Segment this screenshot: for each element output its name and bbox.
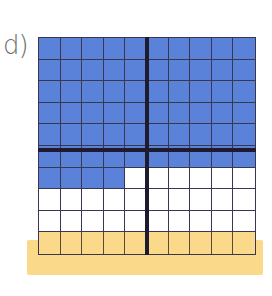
- grid-cell: [125, 103, 147, 125]
- grid-cell: [104, 168, 126, 190]
- grid-cell: [82, 124, 104, 146]
- grid-cell: [147, 124, 169, 146]
- grid-cell: [39, 189, 61, 211]
- grid-cell: [169, 124, 191, 146]
- grid-cell: [39, 232, 61, 254]
- grid-cell: [104, 103, 126, 125]
- grid-cell: [82, 81, 104, 103]
- grid-cell: [82, 103, 104, 125]
- grid-cell: [212, 103, 234, 125]
- grid-cell: [82, 211, 104, 233]
- grid-cell: [212, 124, 234, 146]
- grid-cell: [233, 189, 255, 211]
- grid-cell: [39, 124, 61, 146]
- grid-cell: [39, 60, 61, 82]
- grid-cell: [147, 38, 169, 60]
- grid-cell: [82, 60, 104, 82]
- grid-cell: [233, 124, 255, 146]
- grid-cell: [169, 189, 191, 211]
- grid-cell: [233, 81, 255, 103]
- grid-cell: [104, 124, 126, 146]
- grid-cell: [125, 124, 147, 146]
- grid-cell: [125, 168, 147, 190]
- grid-cell: [61, 60, 83, 82]
- grid-cell: [104, 81, 126, 103]
- grid-cell: [104, 38, 126, 60]
- grid-cell: [233, 232, 255, 254]
- grid-cell: [212, 168, 234, 190]
- grid-cell: [233, 103, 255, 125]
- vertical-half-divider: [145, 37, 149, 255]
- grid-cell: [125, 211, 147, 233]
- grid-cell: [233, 211, 255, 233]
- grid-cell: [169, 81, 191, 103]
- grid-cell: [125, 38, 147, 60]
- grid-cell: [212, 232, 234, 254]
- grid-cell: [61, 38, 83, 60]
- grid-cell: [190, 81, 212, 103]
- grid-cell: [104, 211, 126, 233]
- grid-cell: [125, 60, 147, 82]
- grid-cell: [39, 81, 61, 103]
- grid-cell: [169, 232, 191, 254]
- grid-cell: [169, 211, 191, 233]
- grid-cell: [82, 232, 104, 254]
- grid-cell: [104, 189, 126, 211]
- grid-cell: [233, 60, 255, 82]
- grid-cell: [169, 103, 191, 125]
- grid-cell: [212, 60, 234, 82]
- grid-cell: [190, 60, 212, 82]
- horizontal-half-divider: [38, 148, 256, 152]
- grid-cell: [190, 103, 212, 125]
- grid-cell: [104, 60, 126, 82]
- grid-cell: [61, 103, 83, 125]
- grid-cell: [61, 189, 83, 211]
- grid-cell: [190, 38, 212, 60]
- grid-cell: [212, 38, 234, 60]
- grid-cell: [190, 189, 212, 211]
- grid-cell: [61, 168, 83, 190]
- grid-cell: [169, 168, 191, 190]
- grid-cell: [39, 103, 61, 125]
- grid-cell: [212, 81, 234, 103]
- grid-cell: [147, 168, 169, 190]
- grid-cell: [82, 38, 104, 60]
- grid-cell: [147, 211, 169, 233]
- grid-cell: [190, 168, 212, 190]
- grid-cell: [233, 38, 255, 60]
- grid-cell: [190, 211, 212, 233]
- grid-cell: [61, 211, 83, 233]
- grid-cell: [39, 168, 61, 190]
- figure-label: d): [3, 30, 28, 60]
- grid-cell: [147, 232, 169, 254]
- grid-cell: [169, 60, 191, 82]
- grid-cell: [82, 189, 104, 211]
- grid-cell: [61, 124, 83, 146]
- grid-cell: [233, 168, 255, 190]
- grid-cell: [61, 232, 83, 254]
- grid-cell: [104, 232, 126, 254]
- grid-cell: [147, 103, 169, 125]
- grid-cell: [212, 211, 234, 233]
- grid-cell: [125, 189, 147, 211]
- grid-cell: [147, 60, 169, 82]
- grid-cell: [125, 232, 147, 254]
- grid-cell: [190, 124, 212, 146]
- grid-cell: [125, 81, 147, 103]
- grid-cell: [39, 211, 61, 233]
- grid-cell: [82, 168, 104, 190]
- grid-cell: [39, 38, 61, 60]
- grid-cell: [212, 189, 234, 211]
- grid-cell: [169, 38, 191, 60]
- grid-cell: [147, 189, 169, 211]
- grid-cell: [190, 232, 212, 254]
- grid-cell: [61, 81, 83, 103]
- grid-cell: [147, 81, 169, 103]
